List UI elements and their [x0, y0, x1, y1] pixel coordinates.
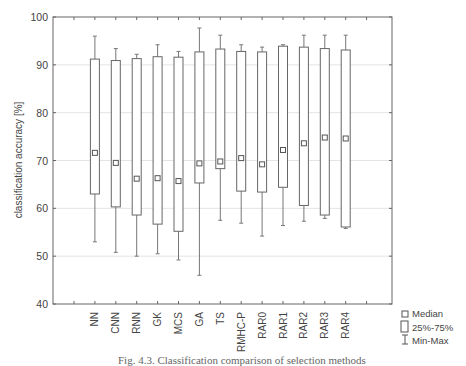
- x-tick-label: RAR2: [298, 312, 309, 339]
- x-tick-label: GA: [194, 312, 205, 327]
- iqr-box: [320, 49, 329, 215]
- iqr-box: [90, 59, 99, 194]
- iqr-box: [132, 59, 141, 215]
- box-rar0: [258, 47, 267, 236]
- box-rmhc-p: [237, 45, 246, 223]
- y-tick-label: 40: [36, 298, 48, 310]
- median-marker: [92, 150, 97, 155]
- median-marker: [218, 159, 223, 164]
- x-tick-label: RAR1: [278, 312, 289, 339]
- y-tick-label: 90: [36, 59, 48, 71]
- median-marker: [239, 156, 244, 161]
- median-marker: [281, 147, 286, 152]
- median-marker: [343, 136, 348, 141]
- iqr-box: [237, 51, 246, 191]
- legend: Median 25%-75% Min-Max: [401, 308, 454, 346]
- y-tick-label: 80: [36, 107, 48, 119]
- box-legend-icon: [401, 321, 408, 332]
- iqr-box: [153, 57, 162, 224]
- box-nn: [90, 36, 99, 242]
- x-tick-label: CNN: [110, 312, 121, 334]
- y-tick-label: 100: [30, 11, 48, 23]
- box-rar2: [299, 35, 308, 221]
- median-marker: [322, 135, 327, 140]
- iqr-box: [174, 57, 183, 231]
- median-legend-icon: [402, 311, 408, 317]
- median-marker: [134, 176, 139, 181]
- box-mcs: [174, 51, 183, 260]
- x-tick-label: MCS: [173, 312, 184, 335]
- iqr-box: [279, 46, 288, 187]
- iqr-box: [216, 49, 225, 169]
- median-marker: [176, 179, 181, 184]
- x-tick-label: RNN: [131, 312, 142, 334]
- box-cnn: [111, 49, 120, 253]
- x-tick-label: GK: [152, 312, 163, 327]
- x-tick-label: RMHC-P: [236, 312, 247, 352]
- box-ga: [195, 28, 204, 275]
- x-tick-label: RAR4: [340, 312, 351, 339]
- legend-minmax: Min-Max: [412, 335, 449, 346]
- iqr-box: [299, 47, 308, 205]
- y-tick-label: 70: [36, 155, 48, 167]
- x-tick-label: RAR0: [257, 312, 268, 339]
- box-rar4: [341, 35, 350, 228]
- median-marker: [197, 161, 202, 166]
- x-tick-label: NN: [89, 312, 100, 326]
- median-marker: [260, 162, 265, 167]
- box-ts: [216, 35, 225, 220]
- legend-quartiles: 25%-75%: [412, 322, 454, 333]
- figure-caption: Fig. 4.3. Classification comparison of s…: [118, 354, 366, 366]
- median-marker: [155, 176, 160, 181]
- legend-median: Median: [412, 308, 443, 319]
- whisker-legend-icon: [402, 335, 408, 344]
- x-tick-label: TS: [215, 312, 226, 325]
- y-tick-label: 50: [36, 250, 48, 262]
- box-gk: [153, 45, 162, 254]
- box-rnn: [132, 54, 141, 256]
- iqr-box: [111, 61, 120, 207]
- y-tick-label: 60: [36, 202, 48, 214]
- median-marker: [301, 141, 306, 146]
- box-rar3: [320, 35, 329, 218]
- iqr-box: [258, 52, 267, 192]
- x-tick-label: RAR3: [319, 312, 330, 339]
- median-marker: [113, 160, 118, 165]
- y-axis-label: classification accuracy [%]: [13, 101, 24, 218]
- box-rar1: [279, 45, 288, 226]
